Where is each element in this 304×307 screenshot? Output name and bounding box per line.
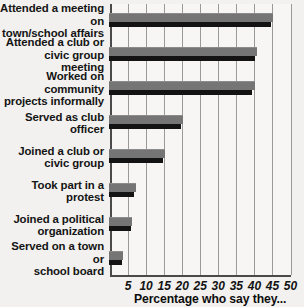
category-label: Worked on community projects informally	[0, 70, 107, 107]
bar-segment-upper	[109, 251, 123, 260]
category-label: Served as club officer	[0, 111, 107, 136]
category-label: Attended a meeting on town/school affair…	[0, 2, 107, 39]
bar-segment-lower	[109, 226, 131, 231]
category-rows: Attended a meeting on town/school affair…	[0, 0, 304, 277]
bar	[109, 47, 257, 61]
chart-row: Served as club officer	[0, 106, 304, 140]
bar-segment-upper	[109, 81, 255, 90]
bar-segment-lower	[109, 260, 122, 265]
bar-container	[107, 4, 297, 38]
bar-segment-lower	[109, 192, 134, 197]
bar-segment-upper	[109, 47, 257, 56]
bar-container	[107, 140, 297, 174]
chart-row: Worked on community projects informally	[0, 72, 304, 106]
bar-segment-upper	[109, 183, 136, 192]
bar-container	[107, 38, 297, 72]
category-label: Joined a political organization	[0, 213, 107, 238]
bar-container	[107, 72, 297, 106]
bar	[109, 183, 136, 197]
chart-row: Served on a town or school board	[0, 242, 304, 276]
chart-row: Joined a club or civic group	[0, 140, 304, 174]
bar-segment-lower	[109, 90, 252, 95]
bar-chart: Attended a meeting on town/school affair…	[0, 0, 304, 307]
bar-segment-lower	[109, 124, 181, 129]
bar	[109, 81, 255, 95]
x-tick-label: 50	[280, 279, 302, 293]
bar-container	[107, 174, 297, 208]
bar-container	[107, 242, 297, 276]
chart-row: Attended a club or civic group meeting	[0, 38, 304, 72]
bar-segment-upper	[109, 13, 273, 22]
bar	[109, 251, 123, 265]
bar-segment-upper	[109, 115, 183, 124]
category-label: Attended a club or civic group meeting	[0, 36, 107, 73]
bar-segment-upper	[109, 217, 132, 226]
bar	[109, 13, 273, 27]
x-axis-title: Percentage who say they...	[134, 292, 286, 306]
category-label: Served on a town or school board	[0, 240, 107, 277]
chart-row: Joined a political organization	[0, 208, 304, 242]
bar	[109, 217, 132, 231]
bar	[109, 115, 183, 129]
bar-container	[107, 208, 297, 242]
bar-segment-lower	[109, 22, 271, 27]
bar	[109, 149, 165, 163]
chart-row: Attended a meeting on town/school affair…	[0, 4, 304, 38]
bar-segment-lower	[109, 158, 163, 163]
chart-row: Took part in a protest	[0, 174, 304, 208]
category-label: Joined a club or civic group	[0, 145, 107, 170]
bar-segment-lower	[109, 56, 255, 61]
category-label: Took part in a protest	[0, 179, 107, 204]
bar-container	[107, 106, 297, 140]
bar-segment-upper	[109, 149, 165, 158]
